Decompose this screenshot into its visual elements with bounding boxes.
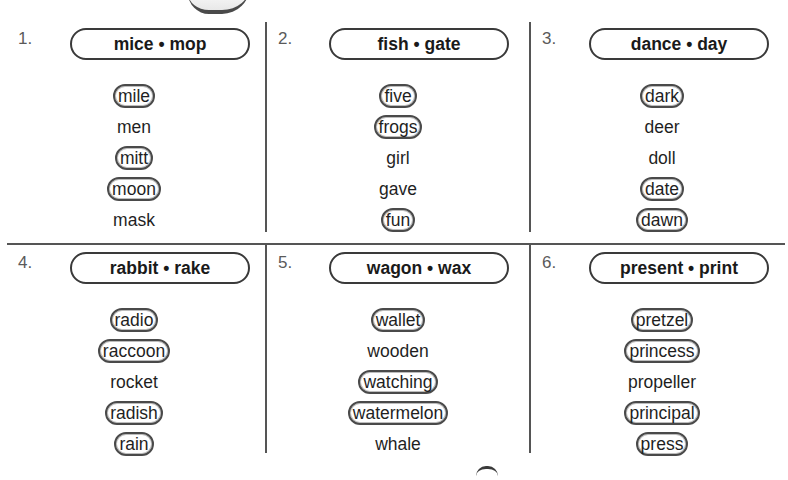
word-text: propeller [623,370,701,394]
group-number: 3. [542,29,556,49]
word-text: wooden [362,339,433,363]
group-number: 1. [18,29,32,49]
word-list: radio raccoon rocket radish rain [2,304,266,459]
word-text: princess [624,339,699,363]
guide-words-pill: mice • mop [70,28,250,60]
word-text: dawn [636,208,688,232]
word-item[interactable]: deer [639,111,684,142]
word-item[interactable]: press [636,428,689,459]
divider-horizontal [7,243,785,245]
word-item[interactable]: doll [643,142,680,173]
word-item[interactable]: wallet [371,304,426,335]
word-list: pretzel princess propeller principal pre… [530,304,788,459]
partial-illustration-top [188,0,250,14]
word-text: pretzel [631,308,694,332]
word-item[interactable]: frogs [374,111,423,142]
word-text: five [379,84,416,108]
group-number: 5. [278,253,292,273]
word-item[interactable]: whale [370,428,426,459]
word-item[interactable]: men [112,111,156,142]
word-item[interactable]: radish [105,397,163,428]
word-item[interactable]: date [640,173,684,204]
word-text: rocket [105,370,163,394]
word-text: watermelon [348,401,448,425]
word-text: mask [108,208,160,232]
word-list: dark deer doll date dawn [530,80,788,235]
word-item[interactable]: wooden [362,335,433,366]
word-item[interactable]: rain [114,428,153,459]
group-3: 3. dance • day dark deer doll date dawn [530,22,788,242]
word-item[interactable]: principal [624,397,699,428]
word-item[interactable]: gave [374,173,422,204]
word-text: raccoon [98,339,170,363]
word-item[interactable]: moon [107,173,161,204]
word-item[interactable]: pretzel [631,304,694,335]
word-list: wallet wooden watching watermelon whale [266,304,530,459]
word-item[interactable]: raccoon [98,335,170,366]
word-list: mile men mitt moon mask [2,80,266,235]
group-number: 6. [542,253,556,273]
word-text: press [636,432,689,456]
word-list: five frogs girl gave fun [266,80,530,235]
word-text: fun [381,208,415,232]
guide-words-pill: fish • gate [329,28,509,60]
word-text: radish [105,401,163,425]
word-text: radio [110,308,159,332]
group-number: 2. [278,29,292,49]
word-item[interactable]: watermelon [348,397,448,428]
word-text: frogs [374,115,423,139]
word-item[interactable]: girl [381,142,414,173]
word-text: deer [639,115,684,139]
word-item[interactable]: dark [640,80,684,111]
word-text: mile [113,84,155,108]
word-text: gave [374,177,422,201]
partial-illustration-bottom [476,466,498,480]
group-number: 4. [18,253,32,273]
word-item[interactable]: mitt [115,142,153,173]
word-text: men [112,115,156,139]
guide-words-pill: rabbit • rake [70,252,250,284]
word-text: doll [643,146,680,170]
guide-words-pill: wagon • wax [329,252,509,284]
guide-words-pill: present • print [589,252,769,284]
group-5: 5. wagon • wax wallet wooden watching wa… [266,246,530,466]
word-text: wallet [371,308,426,332]
word-item[interactable]: dawn [636,204,688,235]
group-2: 2. fish • gate five frogs girl gave fun [266,22,530,242]
word-item[interactable]: watching [358,366,437,397]
word-item[interactable]: rocket [105,366,163,397]
word-item[interactable]: mile [113,80,155,111]
group-1: 1. mice • mop mile men mitt moon mask [2,22,266,242]
word-text: girl [381,146,414,170]
group-4: 4. rabbit • rake radio raccoon rocket ra… [2,246,266,466]
guide-words-pill: dance • day [589,28,769,60]
word-text: date [640,177,684,201]
word-item[interactable]: radio [110,304,159,335]
word-text: mitt [115,146,153,170]
word-item[interactable]: mask [108,204,160,235]
word-item[interactable]: five [379,80,416,111]
word-item[interactable]: propeller [623,366,701,397]
word-text: rain [114,432,153,456]
word-item[interactable]: princess [624,335,699,366]
group-6: 6. present • print pretzel princess prop… [530,246,788,466]
word-text: dark [640,84,684,108]
word-text: principal [624,401,699,425]
word-text: watching [358,370,437,394]
word-text: whale [370,432,426,456]
word-text: moon [107,177,161,201]
word-item[interactable]: fun [381,204,415,235]
